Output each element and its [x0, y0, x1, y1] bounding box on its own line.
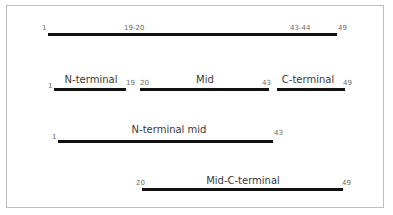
mid-c-terminal-start-number: 20: [136, 180, 145, 187]
n-terminal-bar: [54, 88, 126, 91]
full-peptide-bar: [48, 33, 337, 36]
mid-label: Mid: [196, 75, 214, 85]
full-cut1-number: 19-20: [124, 25, 144, 32]
mid-end-number: 43: [262, 80, 271, 87]
n-terminal-mid-bar: [58, 140, 273, 143]
mid-c-terminal-bar: [142, 188, 343, 191]
n-terminal-mid-start-number: 1: [52, 134, 56, 141]
full-end-number: 49: [338, 25, 347, 32]
mid-bar: [140, 88, 269, 91]
n-terminal-end-number: 19: [126, 80, 135, 87]
mid-c-terminal-end-number: 49: [342, 180, 351, 187]
n-terminal-start-number: 1: [48, 83, 52, 90]
n-terminal-mid-label: N-terminal mid: [132, 125, 207, 135]
c-terminal-bar: [277, 88, 345, 91]
n-terminal-label: N-terminal: [65, 75, 118, 85]
full-cut2-number: 43-44: [290, 25, 310, 32]
c-terminal-label: C-terminal: [282, 75, 334, 85]
mid-c-terminal-label: Mid-C-terminal: [206, 176, 280, 186]
c-terminal-end-number: 49: [343, 80, 352, 87]
n-terminal-mid-end-number: 43: [274, 130, 283, 137]
mid-start-number: 20: [140, 80, 149, 87]
full-start-number: 1: [42, 25, 46, 32]
